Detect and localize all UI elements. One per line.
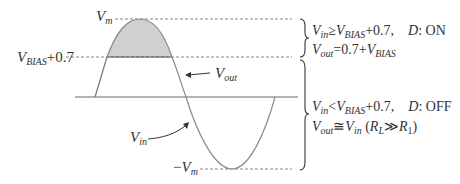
vin-symbol: V <box>312 23 321 38</box>
vbias-subscript: BIAS <box>375 48 396 59</box>
vm-bottom-label: −Vm <box>173 160 198 177</box>
vin-symbol: V <box>345 119 354 134</box>
vbias-symbol: V <box>367 42 376 57</box>
ge-operator: ≥ <box>328 23 336 38</box>
off-brace-icon <box>300 60 309 170</box>
offset-text: +0.7, <box>365 99 394 114</box>
vout-waveform <box>95 57 107 97</box>
vbias-symbol: V <box>17 49 26 65</box>
vm-subscript: m <box>105 15 112 26</box>
vout-arrowhead-icon <box>185 72 191 78</box>
vin-symbol: V <box>312 99 321 114</box>
much-greater-operator: ≫ <box>384 119 399 134</box>
vin-arrow-line <box>148 125 186 139</box>
vout-subscript: out <box>321 48 334 59</box>
vout-symbol: V <box>312 42 321 57</box>
paren-open: ( <box>362 119 370 134</box>
vout-symbol: V <box>312 119 321 134</box>
approx-operator: ≅ <box>333 119 345 134</box>
vm-top-label: Vm <box>96 9 112 26</box>
diode-symbol: D <box>408 23 418 38</box>
on-brace-icon <box>300 19 309 57</box>
vm-symbol: V <box>96 8 105 24</box>
vin-arrowhead-icon <box>183 122 189 129</box>
vbias-level-label: VBIAS+0.7 <box>17 50 74 67</box>
vbias-subscript: BIAS <box>26 56 47 67</box>
vout-equation-text: =0.7+ <box>333 42 366 57</box>
vin-subscript: in <box>139 136 147 147</box>
vbias-subscript: BIAS <box>345 105 366 116</box>
off-condition-line1: Vin<VBIAS+0.7,D: OFF <box>312 100 451 116</box>
vout-subscript: out <box>321 125 334 136</box>
diode-state-on: : ON <box>418 23 446 38</box>
off-condition-line2: Vout≅Vin (RL≫R1) <box>312 120 417 136</box>
paren-close: ) <box>413 119 418 134</box>
diode-symbol: D <box>408 99 418 114</box>
vin-subscript: in <box>354 125 362 136</box>
vbias-offset: +0.7 <box>47 49 74 65</box>
vout-subscript: out <box>224 72 237 83</box>
vout-label: Vout <box>215 66 237 83</box>
neg-vm-symbol: V <box>181 159 190 175</box>
vbias-symbol: V <box>336 99 345 114</box>
clipped-region <box>107 19 172 57</box>
offset-text: +0.7, <box>365 23 394 38</box>
vbias-subscript: BIAS <box>345 29 366 40</box>
r1-symbol: R <box>399 119 408 134</box>
diode-state-off: : OFF <box>418 99 451 114</box>
vin-symbol: V <box>130 129 139 145</box>
vbias-symbol: V <box>336 23 345 38</box>
vout-arrow-line <box>188 73 210 75</box>
neg-vm-subscript: m <box>191 166 198 177</box>
vin-label: Vin <box>130 130 147 147</box>
vout-symbol: V <box>215 65 224 81</box>
on-condition-line2: Vout=0.7+VBIAS <box>312 43 396 59</box>
on-condition-line1: Vin≥VBIAS+0.7,D: ON <box>312 24 446 40</box>
